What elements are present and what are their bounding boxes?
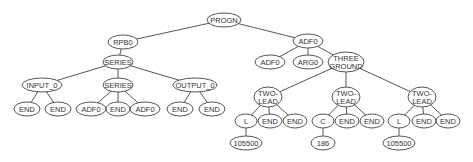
node-label: END [416,117,432,126]
node-label: END [440,117,456,126]
tree-node-105500: 105500 [230,136,262,150]
tree-node-series: SERIES [103,55,133,69]
node-label: END [262,117,278,126]
tree-node-input-0: INPUT_0 [22,78,62,92]
tree-node-two--lead: TWO-LEAD [254,87,282,107]
node-label: GROUND [329,62,363,71]
tree-node-end: END [14,102,40,116]
tree-node-series: SERIES [103,78,133,92]
tree-node-adf0: ADF0 [255,55,285,69]
tree-node-end: END [258,114,282,128]
node-label: OUTPUT_0 [175,81,214,90]
node-label: ADF0 [298,37,317,46]
node-label: PROGN [210,16,238,25]
node-label: LEAD [412,97,432,106]
tree-node-arg0: ARG0 [293,55,323,69]
tree-node-output-0: OUTPUT_0 [173,78,217,92]
node-label: END [339,117,355,126]
node-label: LEAD [336,97,356,106]
tree-node-end: END [106,102,130,116]
tree-node-c: C [312,114,334,128]
tree-node-end: END [335,114,359,128]
node-label: L [397,117,401,126]
node-label: END [172,105,188,114]
tree-node-end: END [436,114,460,128]
node-label: C [320,117,326,126]
node-label: INPUT_0 [27,81,58,90]
tree-node-two--lead: TWO-LEAD [332,87,360,107]
node-label: LEAD [258,97,278,106]
tree-node-l: L [235,114,257,128]
node-label: ADF0 [260,58,279,67]
tree-node-l: L [388,114,410,128]
program-tree-diagram: PROGNRPB0SERIESINPUT_0SERIESOUTPUT_0ENDE… [0,0,473,162]
node-label: END [204,105,220,114]
node-label: 105500 [233,139,258,148]
tree-node-rpb0: RPB0 [108,35,138,49]
node-label: RPB0 [113,38,133,47]
node-label: END [19,105,35,114]
node-label: END [50,105,66,114]
node-label: SERIES [104,81,132,90]
tree-node-end: END [283,114,307,128]
tree-node-adf0: ADF0 [293,34,323,48]
tree-node-105500: 105500 [383,136,415,150]
tree-node-end: END [199,102,225,116]
tree-node-end: END [360,114,384,128]
tree-node-end: END [412,114,436,128]
tree-node-two--lead: TWO-LEAD [408,87,436,107]
tree-node-progn: PROGN [207,13,241,27]
node-label: SERIES [104,58,132,67]
node-label: END [364,117,380,126]
node-label: ADF0 [135,105,154,114]
node-label: END [287,117,303,126]
tree-node-three-ground: THREEGROUND [328,52,364,72]
node-label: 105500 [386,139,411,148]
tree-node-end: END [45,102,71,116]
tree-node-186: 186 [311,136,335,150]
node-label: ADF0 [81,105,100,114]
tree-node-end: END [167,102,193,116]
node-label: END [110,105,126,114]
tree-node-adf0: ADF0 [130,102,160,116]
tree-node-adf0: ADF0 [76,102,106,116]
node-label: ARG0 [298,58,318,67]
tree-nodes: PROGNRPB0SERIESINPUT_0SERIESOUTPUT_0ENDE… [14,13,460,150]
node-label: L [244,117,248,126]
node-label: 186 [317,139,330,148]
